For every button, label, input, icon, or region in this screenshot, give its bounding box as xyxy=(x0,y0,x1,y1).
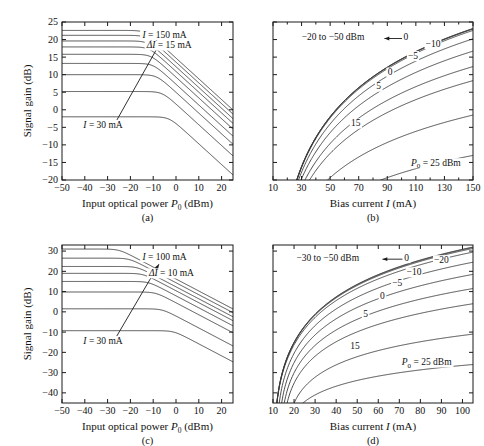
annotation-b-4: 0 xyxy=(388,67,393,77)
curve-a-6 xyxy=(62,41,233,119)
xticklabel-c-5: 0 xyxy=(174,405,179,416)
xticklabel-a-7: 20 xyxy=(217,182,227,193)
yticklabel-c-1: −30 xyxy=(42,367,58,378)
curve-d-8 xyxy=(276,247,473,407)
xaxis-title-d: Bias current I (mA) xyxy=(330,420,417,433)
xticklabel-d-0: 10 xyxy=(268,405,278,416)
xticklabel-c-2: −30 xyxy=(100,405,116,416)
xticklabel-b-5: 110 xyxy=(409,182,424,193)
curve-d-9 xyxy=(276,247,473,407)
panel-c: −50−40−30−20−1001020−40−30−20−100102030I… xyxy=(21,245,233,446)
annotation-b-6: 15 xyxy=(351,118,361,128)
panel-caption-d: (d) xyxy=(367,435,380,446)
xticklabel-d-7: 80 xyxy=(415,405,425,416)
xticklabel-a-6: 10 xyxy=(194,182,204,193)
xticklabel-d-3: 40 xyxy=(331,405,341,416)
curve-c-4 xyxy=(62,273,233,320)
curve-d-6 xyxy=(276,252,473,407)
curve-b-3 xyxy=(294,67,473,187)
yaxis-title-a: Signal gain (dB) xyxy=(21,64,34,137)
xticklabel-d-2: 30 xyxy=(310,405,320,416)
curves-a xyxy=(62,30,233,175)
xticklabel-b-6: 130 xyxy=(437,182,452,193)
xticklabel-a-4: −10 xyxy=(145,182,161,193)
annotation-b-0: −20 to −50 dBm xyxy=(302,32,365,42)
xticklabel-c-0: −50 xyxy=(54,405,70,416)
yticklabel-c-6: 20 xyxy=(48,266,58,277)
xticklabel-c-6: 10 xyxy=(194,405,204,416)
xticklabel-a-3: −20 xyxy=(123,182,139,193)
yticklabel-a-3: −5 xyxy=(47,122,58,133)
yticklabel-a-1: −15 xyxy=(42,157,58,168)
xticklabel-a-1: −40 xyxy=(77,182,93,193)
xticklabel-b-3: 70 xyxy=(354,182,364,193)
annotation-d-2: −20 xyxy=(434,255,449,265)
annotation-d-4: −5 xyxy=(392,278,402,288)
annotation-b-5: 5 xyxy=(376,81,381,91)
yticklabel-a-0: −20 xyxy=(42,174,58,185)
annotation-a-2: I = 30 mA xyxy=(82,120,123,130)
xticklabel-c-3: −20 xyxy=(123,405,139,416)
panel-d: 102030405060708090100Bias current I (mA)… xyxy=(268,245,473,446)
xticklabel-c-7: 20 xyxy=(217,405,227,416)
curve-d-1 xyxy=(290,334,473,407)
yticklabel-a-9: 25 xyxy=(48,16,58,27)
annotation-d-6: 5 xyxy=(363,309,368,319)
yticklabel-a-4: 0 xyxy=(53,104,58,115)
curve-d-3 xyxy=(282,289,473,408)
panel-caption-b: (b) xyxy=(367,212,380,224)
xticklabel-b-2: 50 xyxy=(325,182,335,193)
annotation-c-2: I = 30 mA xyxy=(82,336,123,346)
yticklabel-a-7: 15 xyxy=(48,52,58,63)
xaxis-title-c: Input optical power P0 (dBm) xyxy=(82,420,213,435)
annotation-a-0: I = 150 mA xyxy=(142,30,187,40)
annotation-a-1: ΔI = 15 mA xyxy=(146,40,192,50)
panel-b: 1030507090110130150Bias current I (mA)(b… xyxy=(268,22,481,224)
xticklabel-d-5: 60 xyxy=(373,405,383,416)
annotation-d-5: 0 xyxy=(380,291,385,301)
annotation-arrowhead-b xyxy=(384,37,389,41)
yaxis-title-c: Signal gain (dB) xyxy=(21,287,34,360)
figure-four-panel-soa-gain: −50−40−30−20−1001020−20−15−10−5051015202… xyxy=(0,0,484,446)
annotation-d-7: 15 xyxy=(350,341,360,351)
yticklabel-c-5: 10 xyxy=(48,286,58,297)
xticklabel-d-1: 20 xyxy=(289,405,299,416)
xticklabel-b-0: 10 xyxy=(268,182,278,193)
annotation-c-0: I = 100 mA xyxy=(142,252,187,262)
xticklabel-d-6: 70 xyxy=(394,405,404,416)
panel-caption-c: (c) xyxy=(142,435,154,446)
curve-a-5 xyxy=(62,47,233,123)
annotation-arrowhead-d xyxy=(383,257,388,261)
curve-d-0 xyxy=(292,365,473,408)
yticklabel-c-0: −40 xyxy=(42,387,58,398)
annotation-b-2: −10 xyxy=(426,39,441,49)
xticklabel-c-1: −40 xyxy=(77,405,93,416)
curve-a-2 xyxy=(62,75,233,145)
annotation-d-0: −30 to −50 dBm xyxy=(296,253,359,263)
xticklabel-d-4: 50 xyxy=(352,405,362,416)
yticklabel-a-2: −10 xyxy=(42,139,58,150)
xaxis-title-b: Bias current I (mA) xyxy=(330,197,417,210)
xticklabel-b-7: 150 xyxy=(466,182,481,193)
yticklabel-c-7: 30 xyxy=(48,245,58,256)
axes-frame-b xyxy=(273,22,473,180)
annotation-d-3: −10 xyxy=(407,267,422,277)
annotation-d-1: 0 xyxy=(404,253,409,263)
xaxis-title-a: Input optical power P0 (dBm) xyxy=(82,197,213,212)
curve-d-5 xyxy=(278,262,473,407)
panel-caption-a: (a) xyxy=(142,212,154,224)
yticklabel-a-5: 5 xyxy=(53,87,58,98)
xticklabel-b-1: 30 xyxy=(297,182,307,193)
annotation-b-3: −5 xyxy=(408,51,418,61)
xticklabel-d-9: 100 xyxy=(455,405,470,416)
annotation-b-1: 0 xyxy=(403,32,408,42)
yticklabel-c-4: 0 xyxy=(53,306,58,317)
yticklabel-c-3: −10 xyxy=(42,327,58,338)
yticklabel-c-2: −20 xyxy=(42,347,58,358)
xticklabel-b-4: 90 xyxy=(382,182,392,193)
xticklabel-a-2: −30 xyxy=(100,182,116,193)
annotation-c-1: ΔI = 10 mA xyxy=(148,268,194,278)
yticklabel-a-6: 10 xyxy=(48,69,58,80)
yticklabel-a-8: 20 xyxy=(48,34,58,45)
curves-d xyxy=(276,247,473,407)
